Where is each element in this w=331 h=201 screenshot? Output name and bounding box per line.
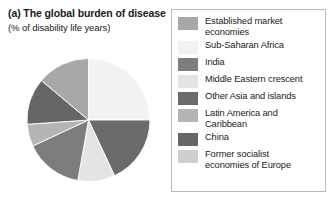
legend-swatch-middle-eastern-crescent	[178, 75, 198, 88]
pie-slice	[89, 59, 151, 121]
pie-chart	[27, 58, 150, 182]
legend-label: Sub-Saharan Africa	[205, 40, 284, 51]
legend-label: Established market economies	[205, 16, 282, 37]
chart-caption: (a) The global burden of disease (% of d…	[8, 7, 168, 34]
legend-swatch-china	[178, 133, 198, 146]
legend-item-sub-saharan-africa: Sub-Saharan Africa	[178, 40, 321, 54]
legend-label: Middle Eastern crescent	[205, 74, 302, 85]
pie-chart-svg	[27, 58, 150, 182]
legend-label: Latin America and Caribbean	[205, 108, 278, 129]
legend-item-india: India	[178, 57, 321, 71]
legend-label: Other Asia and islands	[205, 91, 296, 102]
legend-item-established-market-economies: Established market economies	[178, 16, 321, 37]
legend-swatch-other-asia-and-islands	[178, 92, 198, 105]
pie-slice-group	[27, 59, 150, 182]
legend-item-china: China	[178, 132, 321, 146]
legend-item-former-socialist-economies-of-europe: Former socialist economies of Europe	[178, 149, 321, 170]
chart-legend: Established market economiesSub-Saharan …	[171, 9, 326, 192]
legend-swatch-former-socialist-economies-of-europe	[178, 150, 198, 163]
page-title: (a) The global burden of disease	[8, 7, 168, 20]
legend-label: Former socialist economies of Europe	[205, 149, 291, 170]
chart-subtitle: (% of disability life years)	[8, 21, 168, 34]
legend-swatch-sub-saharan-africa	[178, 41, 198, 54]
legend-item-middle-eastern-crescent: Middle Eastern crescent	[178, 74, 321, 88]
legend-swatch-latin-america-and-caribbean	[178, 109, 198, 122]
legend-item-other-asia-and-islands: Other Asia and islands	[178, 91, 321, 105]
legend-swatch-established-market-economies	[178, 17, 198, 30]
legend-label: India	[205, 57, 225, 68]
legend-item-latin-america-and-caribbean: Latin America and Caribbean	[178, 108, 321, 129]
legend-swatch-india	[178, 58, 198, 71]
legend-label: China	[205, 132, 229, 143]
